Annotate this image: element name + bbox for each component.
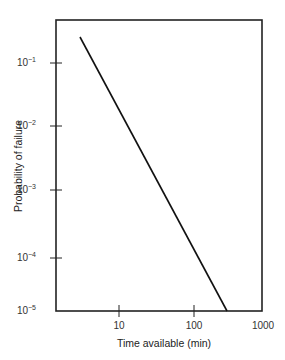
y-axis-label: Probability of failure — [12, 120, 24, 212]
y-tick-label: 10−5 — [17, 304, 36, 316]
y-tick-label: 10−4 — [17, 251, 36, 263]
failure-probability-line — [80, 37, 227, 311]
y-tick-label: 10−1 — [17, 56, 36, 68]
x-tick-label: 1000 — [252, 320, 275, 331]
x-axis-ticks: 101001000 — [113, 305, 274, 331]
x-axis-label: Time available (min) — [117, 337, 211, 349]
x-tick-label: 100 — [186, 320, 203, 331]
plot-frame — [56, 20, 262, 311]
data-series — [80, 37, 227, 311]
plot-frame-rect — [56, 20, 262, 311]
x-tick-label: 10 — [113, 320, 125, 331]
chart: 101001000 10−110−210−310−410−5 Time avai… — [0, 0, 285, 360]
